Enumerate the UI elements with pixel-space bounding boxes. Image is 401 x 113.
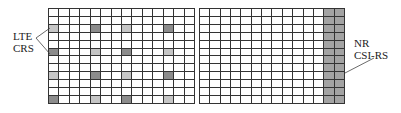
resource-element-shaded [335, 64, 344, 71]
resource-element-shaded [335, 25, 344, 32]
resource-element [80, 80, 89, 87]
resource-element [231, 72, 240, 79]
resource-element [143, 88, 152, 95]
resource-element [210, 41, 219, 48]
resource-element [153, 64, 162, 71]
resource-element [293, 17, 302, 24]
resource-element [164, 56, 173, 63]
resource-element [153, 96, 162, 103]
resource-element [174, 56, 183, 63]
nr-label-line2: CSI-RS [354, 49, 388, 61]
resource-element [304, 9, 313, 16]
resource-element [132, 49, 141, 56]
resource-element [185, 96, 194, 103]
resource-element [241, 41, 250, 48]
resource-element [272, 49, 281, 56]
resource-element [132, 56, 141, 63]
resource-element [153, 33, 162, 40]
resource-element [132, 9, 141, 16]
resource-element [262, 9, 271, 16]
resource-element [174, 25, 183, 32]
resource-element [272, 25, 281, 32]
resource-element [200, 88, 209, 95]
resource-element [59, 72, 68, 79]
resource-element [153, 80, 162, 87]
resource-element [174, 64, 183, 71]
resource-element [49, 80, 58, 87]
resource-element [143, 9, 152, 16]
resource-element [112, 80, 121, 87]
resource-element [200, 33, 209, 40]
resource-element-shaded [122, 25, 131, 32]
resource-element [262, 33, 271, 40]
resource-element [200, 17, 209, 24]
resource-element [314, 9, 323, 16]
resource-element [262, 25, 271, 32]
resource-element [314, 41, 323, 48]
resource-element [293, 25, 302, 32]
resource-element [304, 72, 313, 79]
resource-element [91, 17, 100, 24]
resource-element [221, 41, 230, 48]
resource-element [153, 41, 162, 48]
resource-element [80, 9, 89, 16]
resource-element-shaded [324, 41, 333, 48]
resource-element [241, 33, 250, 40]
resource-element [293, 80, 302, 87]
resource-element [70, 88, 79, 95]
resource-element [122, 56, 131, 63]
resource-element [221, 96, 230, 103]
resource-element [283, 9, 292, 16]
resource-element [241, 25, 250, 32]
resource-element [231, 49, 240, 56]
nr-label-line1: NR [354, 37, 388, 49]
resource-element [304, 41, 313, 48]
resource-element [122, 9, 131, 16]
resource-element [200, 96, 209, 103]
resource-element [200, 9, 209, 16]
resource-element [132, 96, 141, 103]
resource-element-shaded [49, 72, 58, 79]
resource-element-shaded [49, 49, 58, 56]
resource-element [293, 49, 302, 56]
resource-element-shaded [324, 96, 333, 103]
resource-element [164, 33, 173, 40]
resource-element-shaded [91, 25, 100, 32]
resource-element [70, 64, 79, 71]
resource-element [262, 17, 271, 24]
resource-element [80, 49, 89, 56]
resource-element-shaded [335, 41, 344, 48]
resource-element-shaded [335, 17, 344, 24]
resource-element [101, 33, 110, 40]
resource-element [293, 9, 302, 16]
resource-element [241, 96, 250, 103]
resource-element-shaded [335, 88, 344, 95]
resource-element [304, 49, 313, 56]
resource-element [304, 17, 313, 24]
resource-element [262, 80, 271, 87]
lte-label-line2: CRS [13, 42, 34, 54]
resource-element [185, 72, 194, 79]
resource-element [221, 64, 230, 71]
resource-element [174, 17, 183, 24]
resource-element [132, 33, 141, 40]
resource-element [304, 96, 313, 103]
lte-resource-grid [48, 8, 195, 104]
resource-element [262, 96, 271, 103]
resource-element [272, 41, 281, 48]
resource-element-shaded [324, 33, 333, 40]
resource-element [200, 64, 209, 71]
resource-element [252, 17, 261, 24]
resource-element [185, 33, 194, 40]
resource-element [185, 88, 194, 95]
resource-element [132, 72, 141, 79]
resource-element [262, 49, 271, 56]
resource-element-shaded [335, 56, 344, 63]
resource-element [241, 80, 250, 87]
resource-element [101, 80, 110, 87]
resource-element [153, 49, 162, 56]
resource-element [304, 80, 313, 87]
resource-element [252, 80, 261, 87]
resource-element [314, 17, 323, 24]
resource-element [241, 64, 250, 71]
